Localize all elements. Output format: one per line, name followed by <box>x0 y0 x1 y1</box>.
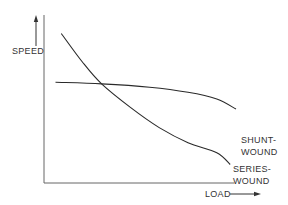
series-label-series-line1: SERIES- <box>233 164 271 174</box>
chart: SPEED LOAD SHUNT- WOUND SERIES- WOUND <box>0 0 288 205</box>
y-axis-arrow <box>34 15 38 46</box>
y-axis-label: SPEED <box>12 46 44 56</box>
x-axis-arrow <box>230 192 261 196</box>
shunt-wound-curve <box>56 82 237 109</box>
series-wound-curve <box>61 34 230 165</box>
x-axis-label: LOAD <box>205 189 231 199</box>
series-label-shunt-line2: WOUND <box>241 147 278 157</box>
series-label-shunt-line1: SHUNT- <box>241 135 276 145</box>
series-label-series-line2: WOUND <box>233 176 270 186</box>
